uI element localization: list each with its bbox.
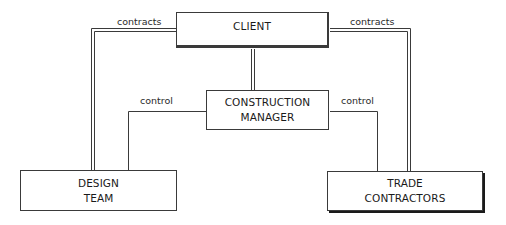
control-label-right: control	[341, 95, 374, 106]
design-team-node: DESIGN TEAM	[20, 170, 177, 211]
client-label: CLIENT	[233, 19, 271, 34]
contracts-label-left: contracts	[117, 16, 161, 27]
diagram-canvas: contracts contracts control control CLIE…	[0, 0, 506, 225]
construction-manager-node: CONSTRUCTION MANAGER	[206, 90, 329, 130]
trade-contractors-node: TRADE CONTRACTORS	[327, 171, 483, 211]
control-line-cm-design-team	[129, 112, 207, 171]
trade-contractors-label-line1: TRADE	[387, 176, 423, 191]
design-team-label-line1: DESIGN	[78, 176, 119, 191]
control-label-left: control	[140, 95, 173, 106]
trade-contractors-label-line2: CONTRACTORS	[365, 191, 446, 206]
line-client-construction-manager	[252, 49, 255, 90]
construction-manager-label-line2: MANAGER	[241, 110, 295, 125]
construction-manager-label-line1: CONSTRUCTION	[225, 95, 311, 110]
control-line-cm-trade-contractors	[330, 112, 378, 172]
client-node: CLIENT	[176, 12, 329, 48]
contracts-label-right: contracts	[350, 16, 394, 27]
design-team-label-line2: TEAM	[84, 191, 114, 206]
